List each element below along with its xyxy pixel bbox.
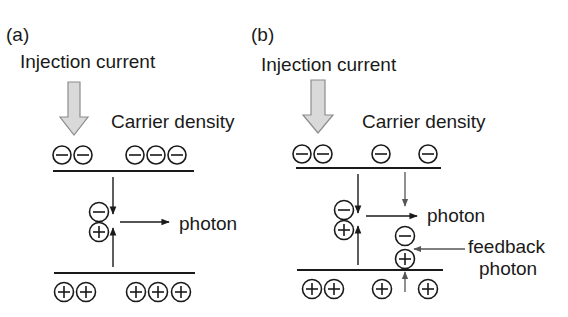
panel-b-injection-label: Injection current bbox=[261, 54, 397, 75]
panel-a: (a) Injection current Carrier density ph… bbox=[6, 24, 237, 302]
panel-b-label: (b) bbox=[251, 24, 274, 45]
panel-b-photon-label: photon bbox=[427, 205, 485, 226]
panel-a-recombination-pair bbox=[90, 203, 109, 242]
panel-b-stimulated-pair bbox=[396, 227, 415, 269]
panel-a-electrons bbox=[53, 146, 186, 164]
panel-b-holes bbox=[303, 280, 438, 299]
panel-b-electrons bbox=[293, 145, 437, 163]
injection-arrow-icon bbox=[60, 82, 88, 135]
panel-b-feedback-label-line1: feedback bbox=[468, 236, 546, 257]
panel-b-recombination-pair bbox=[335, 201, 354, 240]
panel-a-injection-label: Injection current bbox=[20, 51, 156, 72]
panel-a-holes bbox=[55, 283, 191, 302]
diagram-canvas: (a) Injection current Carrier density ph… bbox=[0, 0, 568, 317]
injection-arrow-icon bbox=[303, 80, 333, 133]
panel-b-feedback-label-line2: photon bbox=[479, 258, 537, 279]
panel-a-photon-label: photon bbox=[179, 213, 237, 234]
panel-b: (b) Injection current Carrier density ph… bbox=[251, 24, 546, 299]
panel-a-label: (a) bbox=[6, 24, 29, 45]
panel-a-carrier-label: Carrier density bbox=[111, 111, 235, 132]
panel-b-carrier-label: Carrier density bbox=[362, 111, 486, 132]
